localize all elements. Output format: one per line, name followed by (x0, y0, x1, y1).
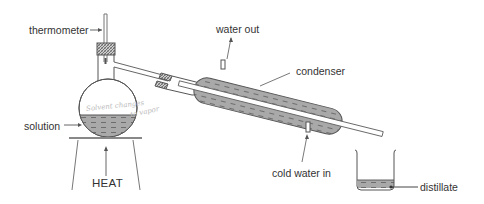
stopper (97, 43, 115, 55)
water-out-nozzle (221, 60, 225, 69)
condenser-pointer (260, 73, 290, 86)
solution-label: solution (24, 121, 60, 132)
water-out-arrow (227, 37, 233, 59)
condenser (176, 71, 386, 147)
thermometer (104, 14, 107, 64)
heat-arrow (104, 146, 108, 176)
water-out-label: water out (216, 24, 259, 35)
water-in-arrow (302, 134, 309, 162)
cold-water-in-label: cold water in (272, 168, 331, 179)
condenser-label: condenser (296, 66, 345, 77)
solution-arrow (64, 123, 82, 127)
distillate-label: distillate (420, 182, 458, 193)
thermometer-arrow (90, 28, 102, 32)
thermometer-label: thermometer (29, 25, 89, 36)
heat-label: HEAT (92, 178, 123, 190)
beaker (355, 150, 396, 190)
water-in-nozzle (306, 122, 310, 132)
